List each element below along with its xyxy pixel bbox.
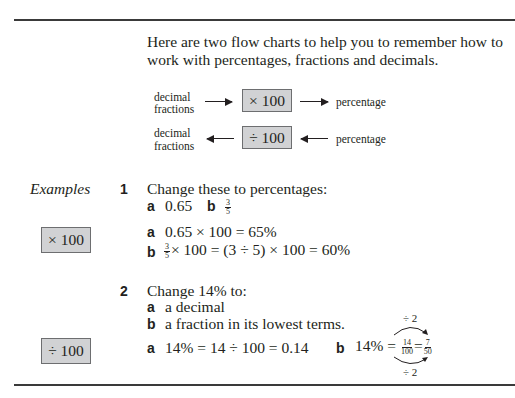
- arrow-left-icon: [301, 138, 328, 139]
- intro-line-2: work with percentages, fractions and dec…: [147, 51, 438, 69]
- bottom-rule: [14, 384, 515, 386]
- answer-label: b: [147, 244, 156, 260]
- sidebar-multiply-box: × 100: [41, 227, 91, 253]
- answer-line: 14% = 14100=750: [355, 337, 433, 356]
- answer-text: × 100 = (3 ÷ 5) × 100 = 60%: [171, 241, 350, 258]
- flowchart-2-left-line2: fractions: [154, 140, 194, 152]
- flowchart-1-operation-box: × 100: [242, 89, 292, 112]
- flowchart-1-operation: × 100: [249, 92, 285, 110]
- part-label: b: [147, 316, 156, 332]
- flowchart-2-operation-box: ÷ 100: [242, 126, 292, 149]
- equals: =: [414, 337, 423, 354]
- arrow-right-icon: [205, 101, 232, 102]
- flowchart-2-right: percentage: [336, 133, 386, 145]
- part-label: a: [147, 299, 155, 315]
- answer-line: 35× 100 = (3 ÷ 5) × 100 = 60%: [163, 241, 350, 260]
- fraction-denominator: 5: [165, 252, 169, 260]
- sidebar-multiply-label: × 100: [48, 231, 84, 249]
- part-text: 0.65: [165, 197, 192, 214]
- answer-label: a: [147, 340, 155, 356]
- answer-prefix: 14% =: [355, 337, 396, 354]
- arrow-left-icon: [207, 138, 234, 139]
- part-label: a: [147, 198, 155, 214]
- example-1-number: 1: [120, 181, 128, 197]
- answer-text: 0.65 × 100 = 65%: [165, 223, 277, 240]
- flowchart-1-left-line1: decimal: [154, 91, 190, 103]
- arrow-right-icon: [300, 101, 328, 102]
- fraction: 35: [224, 197, 232, 216]
- part-text: a decimal: [165, 298, 225, 315]
- answer-label: b: [336, 340, 345, 356]
- part-text: a fraction in its lowest terms.: [165, 315, 345, 332]
- intro-line-1: Here are two flow charts to help you to …: [147, 33, 503, 51]
- flowchart-2-operation: ÷ 100: [249, 129, 285, 147]
- example-1-question: Change these to percentages:: [147, 180, 327, 197]
- bottom-note: ÷ 2: [403, 366, 417, 378]
- flowchart-2-left-line1: decimal: [154, 127, 190, 139]
- fraction-denominator: 5: [226, 208, 230, 216]
- sidebar-divide-label: ÷ 100: [48, 342, 84, 360]
- top-rule: [14, 19, 515, 21]
- answer-label: a: [147, 224, 155, 240]
- part-label: b: [207, 198, 216, 214]
- answer-text: 14% = 14 ÷ 100 = 0.14: [165, 339, 309, 356]
- flowchart-1-left-line2: fractions: [154, 103, 194, 115]
- example-2-question: Change 14% to:: [147, 282, 247, 299]
- curved-arrow-top-icon: [392, 323, 432, 337]
- examples-heading: Examples: [30, 180, 90, 197]
- flowchart-1-right: percentage: [336, 96, 386, 108]
- example-2-number: 2: [120, 283, 128, 299]
- sidebar-divide-box: ÷ 100: [41, 338, 91, 364]
